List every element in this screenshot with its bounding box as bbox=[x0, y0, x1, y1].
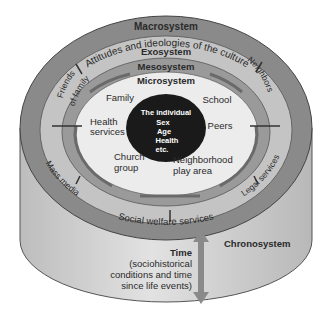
micro-item-peers: Peers bbox=[208, 120, 233, 131]
micro-item-church-2: group bbox=[114, 162, 138, 173]
time-desc-1: (sociohistorical bbox=[129, 258, 192, 269]
individual-trait-etc: etc. bbox=[156, 145, 169, 154]
exosystem-title: Exosystem bbox=[141, 46, 191, 57]
time-desc-2: conditions and time bbox=[110, 269, 192, 280]
individual-trait-health: Health bbox=[156, 136, 179, 145]
micro-item-neighborhood-2: play area bbox=[173, 165, 213, 176]
mesosystem-title: Mesosystem bbox=[137, 61, 194, 72]
micro-item-neighborhood: Neighborhood bbox=[173, 154, 233, 165]
micro-item-family: Family bbox=[106, 92, 134, 103]
time-desc-3: since life events) bbox=[121, 280, 192, 291]
individual-trait-age: Age bbox=[157, 127, 171, 136]
microsystem-title: Microsystem bbox=[137, 75, 195, 86]
micro-item-school: School bbox=[202, 94, 231, 105]
individual-trait-sex: Sex bbox=[156, 118, 170, 127]
micro-item-church: Church bbox=[114, 151, 145, 162]
micro-item-health-2: services bbox=[90, 126, 125, 137]
chronosystem-title: Chronosystem bbox=[224, 238, 291, 249]
time-title: Time bbox=[170, 247, 192, 258]
bioecological-diagram: Macrosystem Attitudes and ideologies of … bbox=[0, 0, 332, 327]
macrosystem-title: Macrosystem bbox=[134, 21, 198, 32]
individual-title: The individual bbox=[141, 108, 191, 117]
